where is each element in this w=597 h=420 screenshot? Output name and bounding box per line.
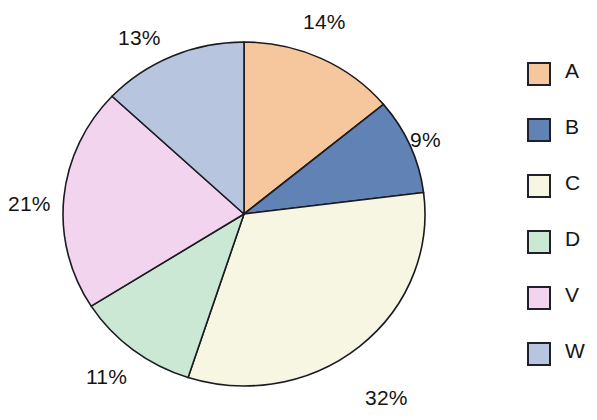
legend-label-b: B bbox=[565, 113, 579, 141]
legend-item-b[interactable]: B bbox=[527, 111, 597, 167]
legend-item-c[interactable]: C bbox=[527, 167, 597, 223]
legend-label-a: A bbox=[565, 57, 579, 85]
legend: ABCDVW bbox=[527, 55, 597, 391]
legend-item-a[interactable]: A bbox=[527, 55, 597, 111]
legend-label-w: W bbox=[565, 337, 585, 365]
legend-label-d: D bbox=[565, 225, 580, 253]
percent-label-c: 32% bbox=[365, 386, 408, 410]
percent-label-d: 11% bbox=[86, 365, 127, 389]
legend-label-v: V bbox=[565, 281, 579, 309]
percent-label-w: 13% bbox=[118, 26, 161, 50]
legend-swatch-a bbox=[527, 62, 551, 86]
pie-svg bbox=[0, 0, 460, 420]
percent-label-a: 14% bbox=[303, 10, 346, 34]
legend-swatch-w bbox=[527, 342, 551, 366]
legend-label-c: C bbox=[565, 169, 580, 197]
legend-swatch-b bbox=[527, 118, 551, 142]
legend-swatch-c bbox=[527, 174, 551, 198]
legend-item-d[interactable]: D bbox=[527, 223, 597, 279]
percent-label-v: 21% bbox=[8, 192, 51, 216]
pie-chart-figure: 14%9%32%11%21%13% ABCDVW bbox=[0, 0, 597, 420]
legend-swatch-d bbox=[527, 230, 551, 254]
pie-plot-area: 14%9%32%11%21%13% bbox=[0, 0, 460, 420]
percent-label-b: 9% bbox=[410, 128, 441, 152]
legend-item-v[interactable]: V bbox=[527, 279, 597, 335]
legend-item-w[interactable]: W bbox=[527, 335, 597, 391]
legend-swatch-v bbox=[527, 286, 551, 310]
